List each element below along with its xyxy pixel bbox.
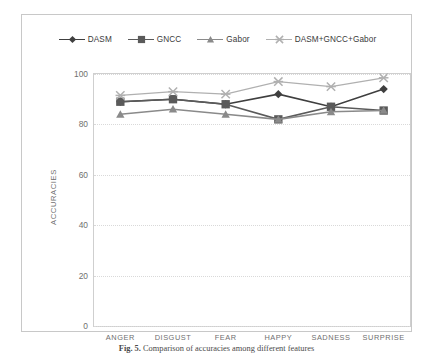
y-tick-label-80: 80: [79, 119, 88, 129]
chart-legend: DASMGNCCGaborDASM+GNCC+Gabor: [22, 29, 413, 49]
legend-item-gncc[interactable]: GNCC: [128, 35, 182, 44]
gridline-y-100: [94, 74, 410, 75]
y-tick-label-0: 0: [83, 321, 88, 331]
legend-label: Gabor: [226, 35, 249, 44]
x-tick-label-surprise: SURPRISE: [363, 333, 405, 342]
series-layer: [94, 74, 410, 326]
y-tick-label-60: 60: [79, 170, 88, 180]
gridline-y-40: [94, 225, 410, 226]
legend-item-dasm[interactable]: DASM: [59, 35, 112, 44]
series-dasm-gncc-gabor: [116, 74, 389, 100]
gridline-y-0: [94, 326, 410, 327]
legend-label: DASM+GNCC+Gabor: [295, 35, 377, 44]
x-tick-label-anger: ANGER: [106, 333, 135, 342]
gridline-y-60: [94, 175, 410, 176]
legend-item-gabor[interactable]: Gabor: [197, 35, 249, 44]
x-tick-label-sadness: SADNESS: [311, 333, 350, 342]
legend-marker-star-icon: [266, 35, 292, 44]
x-tick-label-disgust: DISGUST: [155, 333, 192, 342]
chart-frame: DASMGNCCGaborDASM+GNCC+Gabor ACCURACIES …: [21, 14, 412, 332]
y-tick-label-100: 100: [74, 69, 88, 79]
y-tick-label-20: 20: [79, 271, 88, 281]
legend-marker-triangle-icon: [197, 35, 223, 44]
caption-text: Comparison of accuracies among different…: [143, 344, 314, 353]
caption-figure-number: Fig. 5.: [119, 344, 141, 353]
legend-item-dasm-gncc-gabor[interactable]: DASM+GNCC+Gabor: [266, 35, 377, 44]
y-axis-title: ACCURACIES: [49, 169, 58, 225]
gridline-y-80: [94, 124, 410, 125]
legend-label: DASM: [88, 35, 112, 44]
plot-area: 020406080100ANGERDISGUSTFEARHAPPYSADNESS…: [93, 73, 411, 327]
y-tick-label-40: 40: [79, 220, 88, 230]
legend-marker-square-icon: [128, 35, 154, 44]
figure-caption: Fig. 5. Comparison of accuracies among d…: [0, 344, 433, 353]
legend-label: GNCC: [157, 35, 182, 44]
x-tick-label-happy: HAPPY: [264, 333, 292, 342]
legend-marker-diamond-icon: [59, 35, 85, 44]
plot-wrapper: ACCURACIES 020406080100ANGERDISGUSTFEARH…: [69, 59, 414, 335]
gridline-y-20: [94, 276, 410, 277]
figure-container: DASMGNCCGaborDASM+GNCC+Gabor ACCURACIES …: [0, 0, 433, 359]
series-dasm: [116, 85, 388, 111]
x-tick-label-fear: FEAR: [215, 333, 237, 342]
